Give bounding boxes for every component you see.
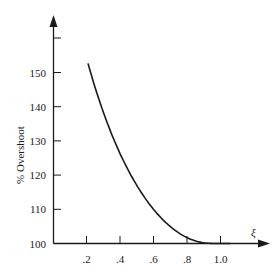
y-tick-label: 140 [30, 101, 47, 113]
y-tick-label: 120 [30, 169, 47, 181]
y-tick-label: 100 [30, 238, 47, 250]
y-ticks: 100110120130140150 [30, 67, 62, 250]
y-axis-label: % Overshoot [14, 126, 26, 184]
x-axis-label: ξ [251, 226, 256, 239]
overshoot-chart: 100110120130140150 .2.4.6.81.0 ξ % Overs… [0, 0, 278, 272]
y-tick-label: 150 [30, 67, 47, 79]
x-tick-label: .4 [116, 253, 125, 265]
y-tick-label: 130 [30, 135, 47, 147]
overshoot-curve [88, 63, 230, 243]
x-axis-arrow-icon [258, 240, 270, 248]
y-axis-arrow-icon [50, 15, 58, 27]
x-ticks: .2.4.6.81.0 [82, 236, 228, 265]
x-tick-label: .6 [149, 253, 158, 265]
x-tick-label: .2 [82, 253, 90, 265]
x-tick-label: 1.0 [214, 253, 228, 265]
x-tick-label: .8 [183, 253, 192, 265]
y-tick-label: 110 [30, 203, 47, 215]
